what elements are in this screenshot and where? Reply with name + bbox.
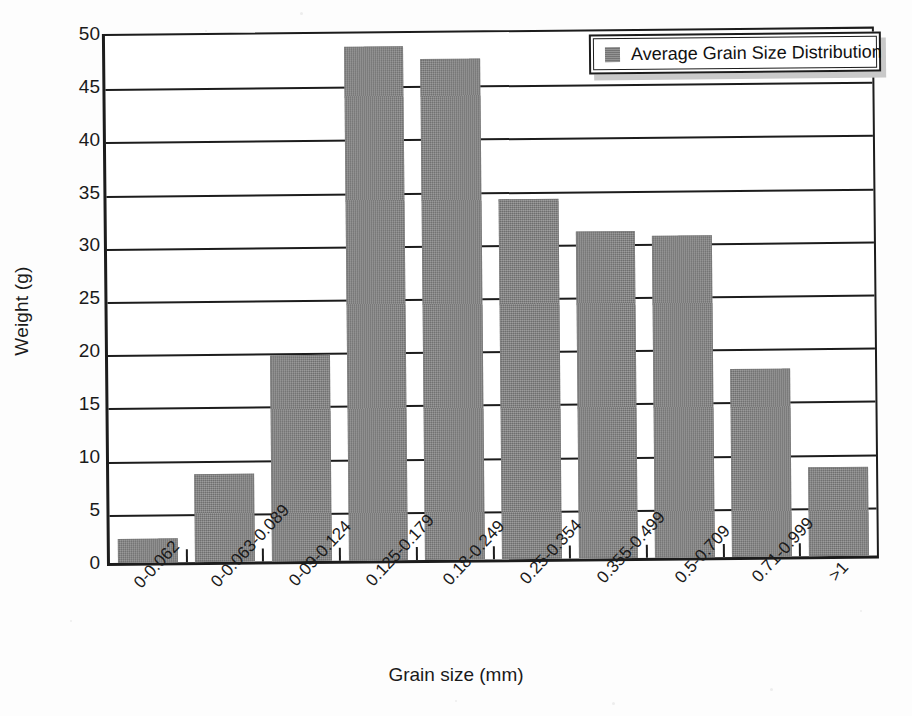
y-axis-tick-label: 20: [60, 341, 100, 360]
bar-category: [795, 29, 877, 557]
bar-category: [182, 35, 264, 563]
bar-category: [565, 31, 647, 559]
bar: [498, 199, 561, 559]
legend: Average Grain Size Distribution: [589, 32, 881, 75]
y-axis-tick-label: 5: [60, 500, 100, 519]
scan-speckle: [455, 700, 457, 702]
bar-category: [642, 30, 724, 558]
chart-canvas: Weight (g) 05101520253035404550 0-0.0620…: [0, 0, 912, 716]
bar-category: [105, 35, 187, 563]
bar: [270, 354, 332, 561]
y-axis-tick-label: 35: [60, 183, 100, 202]
bar-category: [258, 34, 340, 562]
y-axis-tick-label: 10: [60, 447, 100, 466]
bar: [344, 46, 409, 560]
y-axis-tick-label: 25: [60, 288, 100, 307]
legend-inner: Average Grain Size Distribution: [593, 36, 877, 71]
x-axis-tick-labels: 0-0.0620-0.063-0.0890-09-0.1240.125-0.17…: [107, 566, 879, 666]
bar: [575, 231, 638, 558]
bar-category: [335, 33, 417, 561]
x-axis-tick-label: >1: [825, 558, 853, 586]
bar-series: [105, 29, 877, 563]
scan-speckle: [70, 620, 72, 622]
bar: [652, 235, 715, 558]
y-axis-tick-labels: 05101520253035404550: [52, 0, 100, 716]
legend-label: Average Grain Size Distribution: [631, 41, 882, 64]
bar-category: [719, 29, 801, 557]
bar-category: [488, 32, 570, 560]
scan-speckle: [612, 702, 615, 705]
y-axis-tick-label: 40: [60, 130, 100, 149]
bar: [808, 466, 869, 556]
plot-frame: [102, 27, 879, 566]
y-axis-title: Weight (g): [11, 231, 33, 391]
y-axis-tick-label: 15: [60, 394, 100, 413]
scan-speckle: [770, 688, 773, 691]
bar: [420, 58, 485, 560]
bar-category: [412, 32, 494, 560]
y-axis-tick-label: 30: [60, 235, 100, 254]
plot-area: [102, 27, 879, 566]
legend-swatch-icon: [605, 47, 620, 62]
y-axis-tick-label: 50: [60, 24, 100, 43]
y-axis-tick-label: 0: [60, 553, 100, 572]
scan-speckle: [300, 12, 303, 15]
bar: [730, 368, 792, 557]
scan-speckle: [205, 30, 207, 32]
scan-speckle: [860, 610, 862, 612]
y-axis-tick-label: 45: [60, 77, 100, 96]
x-axis-title: Grain size (mm): [0, 664, 912, 686]
